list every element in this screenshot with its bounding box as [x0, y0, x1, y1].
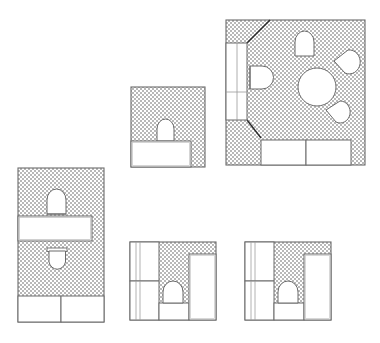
plan-left-tall: [18, 168, 104, 322]
plan-a-toilet-upper: [47, 189, 66, 214]
plan-d-cabinet-lower-left: [130, 281, 159, 320]
floor-plan-sheet: [0, 0, 380, 343]
plan-c-counter-row: [261, 140, 351, 165]
plan-d-counter-bottom: [159, 303, 189, 320]
plan-top-middle: [131, 87, 205, 167]
plan-b-toilet: [157, 119, 174, 141]
plan-bottom-middle: [130, 242, 216, 320]
plan-b-bathtub: [131, 141, 191, 167]
plan-e-toilet: [278, 281, 298, 303]
plan-c-sink-round: [298, 68, 336, 106]
plan-e-counter-bottom: [274, 303, 304, 320]
plan-top-right: [226, 20, 365, 165]
plan-c-left-bathtub: [226, 43, 247, 120]
plan-e-cabinet-lower-left: [245, 281, 274, 320]
plan-c-toilet-top: [295, 31, 314, 56]
plan-c-toilet-left: [250, 66, 274, 89]
plan-e-cabinet-upper-left: [245, 242, 274, 281]
plan-d-cabinet-upper-left: [130, 242, 159, 281]
plan-a-counter-row: [18, 296, 104, 322]
plan-e-bathtub-right: [304, 254, 331, 320]
plan-bottom-right: [245, 242, 331, 320]
plan-d-toilet: [163, 281, 183, 303]
floor-plan-drawing: [0, 0, 380, 343]
plan-a-bathtub: [18, 216, 92, 241]
plan-d-bathtub-right: [189, 254, 216, 320]
